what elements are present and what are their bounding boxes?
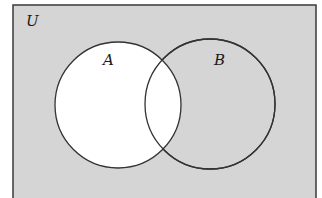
set-a-label: A bbox=[101, 51, 114, 69]
universe-label: U bbox=[26, 12, 40, 30]
venn-diagram: U A B bbox=[0, 0, 322, 198]
set-b-label: B bbox=[213, 51, 225, 69]
